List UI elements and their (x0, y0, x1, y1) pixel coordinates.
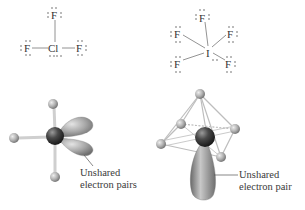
central-atom (46, 127, 64, 145)
ligand-atom-top (48, 99, 58, 109)
label-unshared-pairs: Unshared electron pairs (80, 167, 137, 191)
atom-f-right: F (76, 42, 82, 54)
ligand-atom-front-right (216, 152, 226, 162)
ligand-atom-back-right (230, 124, 240, 134)
atom-f-lower-right: F (225, 58, 231, 70)
lone-pair-lobe-lower (58, 138, 93, 156)
leader-line (84, 155, 93, 166)
label-line-1: Unshared (239, 169, 292, 181)
ligand-atom-apex (195, 89, 205, 99)
atom-f-top: F (199, 12, 205, 24)
atom-f-left: F (24, 42, 30, 54)
bond-line (205, 22, 208, 46)
label-line-2: electron pairs (80, 179, 137, 191)
label-line-1: Unshared (80, 167, 137, 179)
model-square-pyramidal (156, 89, 240, 200)
label-line-2: electron pair (239, 181, 292, 193)
ligand-atom-bottom (50, 172, 60, 182)
atom-f-upper-left: F (174, 28, 180, 40)
lewis-if5: F F F I F F (170, 9, 237, 72)
ligand-atom-front-left (156, 139, 166, 149)
bond-line (213, 53, 225, 60)
atom-i-central: I (206, 47, 210, 59)
atom-f-upper-right: F (227, 28, 233, 40)
bond-rod (18, 137, 50, 138)
bond-line (183, 35, 205, 48)
ligand-atom-left (9, 133, 19, 143)
ligand-atom-back-left (176, 119, 186, 129)
label-unshared-pair: Unshared electron pair (239, 169, 292, 193)
lone-pair-lobe (190, 145, 215, 200)
atom-f-lower-left: F (174, 58, 180, 70)
atom-cl-central: Cl (48, 42, 58, 54)
bond-line (212, 35, 226, 47)
atom-f-top: F (51, 9, 57, 21)
bond-line (183, 53, 204, 60)
lewis-clf3: F F F Cl (20, 7, 86, 56)
central-atom (195, 127, 215, 147)
pyramid-edges (161, 94, 235, 157)
